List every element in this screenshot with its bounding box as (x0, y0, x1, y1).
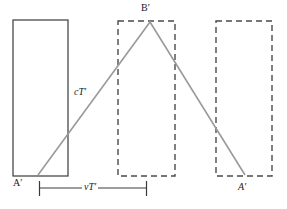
label-b-prime: B′ (141, 3, 150, 13)
label-a-prime-end: A′ (238, 182, 246, 192)
box-middle-dashed (118, 21, 175, 176)
box-right-dashed (216, 21, 272, 176)
figure-root: B′ A′ A′ cT′ vT′ (0, 0, 287, 209)
label-vt-prime: vT′ (82, 182, 98, 192)
figure-canvas (0, 0, 287, 209)
label-a-prime-start: A′ (13, 178, 22, 188)
label-ct-prime: cT′ (74, 87, 86, 97)
light-path-polyline (38, 22, 245, 175)
box-left-solid (13, 20, 68, 176)
